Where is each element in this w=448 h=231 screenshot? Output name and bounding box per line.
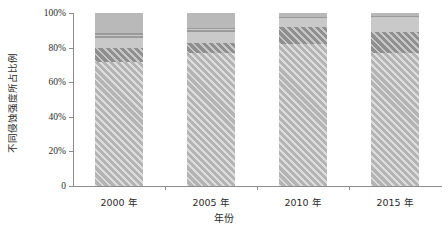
stacked-bar-chart: 不同侵蚀强度所占比例 020%40%60%80%100%2000 年2005 年…	[0, 0, 448, 231]
bar-segment[interactable]	[95, 39, 143, 49]
x-axis-tick	[165, 186, 166, 190]
plot-area: 020%40%60%80%100%2000 年2005 年2010 年2015 …	[73, 13, 441, 186]
bar-segment[interactable]	[95, 33, 143, 39]
bar-segment[interactable]	[371, 16, 419, 18]
x-axis-title: 年份	[0, 210, 448, 225]
bar-segment[interactable]	[371, 13, 419, 16]
bar-segment[interactable]	[371, 32, 419, 53]
y-axis-tick	[69, 151, 73, 152]
x-axis-tick	[257, 186, 258, 190]
x-axis-tick-label: 2005 年	[192, 195, 229, 209]
bar-segment[interactable]	[95, 62, 143, 186]
y-axis-tick-label: 0	[61, 181, 66, 191]
y-axis-tick-label: 40%	[49, 112, 66, 122]
y-axis-tick-label: 80%	[49, 43, 66, 53]
bar-segment[interactable]	[187, 13, 235, 28]
bar-column[interactable]	[95, 13, 143, 186]
y-axis-title: 不同侵蚀强度所占比例	[5, 13, 19, 193]
y-axis-tick	[69, 82, 73, 83]
x-axis-tick-label: 2000 年	[100, 195, 137, 209]
bar-segment[interactable]	[371, 53, 419, 186]
bar-segment[interactable]	[371, 18, 419, 32]
y-axis-tick	[69, 48, 73, 49]
y-axis-tick-label: 20%	[49, 146, 66, 156]
bar-segment[interactable]	[279, 44, 327, 186]
bar-segment[interactable]	[187, 33, 235, 43]
x-axis-tick-label: 2015 年	[376, 195, 413, 209]
bar-column[interactable]	[371, 13, 419, 186]
bar-segment[interactable]	[187, 43, 235, 53]
bar-segment[interactable]	[279, 27, 327, 44]
bar-segment[interactable]	[95, 48, 143, 62]
y-axis-tick-label: 60%	[49, 77, 66, 87]
x-axis-tick	[349, 186, 350, 190]
bar-segment[interactable]	[279, 19, 327, 27]
y-axis-line	[73, 13, 74, 187]
bar-segment[interactable]	[279, 13, 327, 17]
x-axis-tick-label: 2010 年	[284, 195, 321, 209]
bar-segment[interactable]	[187, 28, 235, 33]
bar-segment[interactable]	[279, 17, 327, 19]
bar-column[interactable]	[187, 13, 235, 186]
y-axis-tick-label: 100%	[44, 8, 66, 18]
y-axis-tick	[69, 186, 73, 187]
y-axis-tick	[69, 117, 73, 118]
bar-segment[interactable]	[187, 53, 235, 186]
y-axis-tick	[69, 13, 73, 14]
bar-column[interactable]	[279, 13, 327, 186]
bar-segment[interactable]	[95, 13, 143, 33]
